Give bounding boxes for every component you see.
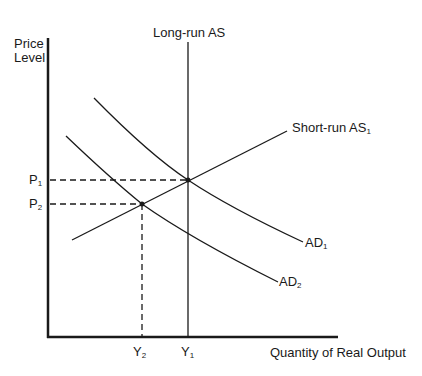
- ad1-subscript: 1: [323, 242, 327, 251]
- ad2-label: AD2: [279, 275, 302, 293]
- ad2-subscript: 2: [297, 281, 301, 290]
- ad1-text: AD: [305, 235, 323, 250]
- sras-line: [72, 131, 287, 240]
- y-axis-label-line2: Level: [14, 51, 45, 65]
- y2-label: Y2: [133, 345, 146, 363]
- ad1-curve: [94, 98, 303, 242]
- p1-text: P: [29, 172, 38, 187]
- y1-text: Y: [181, 344, 190, 359]
- p1-label: P1: [29, 173, 42, 191]
- p2-text: P: [29, 196, 38, 211]
- sras-text: Short-run AS: [292, 120, 366, 135]
- equilibrium-point-2: [140, 202, 145, 207]
- p2-label: P2: [29, 197, 42, 215]
- p2-subscript: 2: [38, 203, 42, 212]
- y2-subscript: 2: [142, 351, 146, 360]
- y2-text: Y: [133, 344, 142, 359]
- y1-label: Y1: [181, 345, 194, 363]
- ad2-text: AD: [279, 274, 297, 289]
- sras-subscript: 1: [366, 127, 370, 136]
- lras-label: Long-run AS: [153, 26, 225, 40]
- y-axis-label-line1: Price: [14, 37, 45, 51]
- ad2-curve: [66, 136, 278, 282]
- sras-label: Short-run AS1: [292, 121, 371, 139]
- diagram-canvas: [0, 0, 422, 376]
- x-axis-label-text: Quantity of Real Output: [270, 345, 406, 360]
- ad1-label: AD1: [305, 236, 328, 254]
- p1-subscript: 1: [38, 179, 42, 188]
- x-axis-label: Quantity of Real Output: [270, 346, 406, 360]
- lras-text: Long-run AS: [153, 25, 225, 40]
- equilibrium-point-1: [186, 178, 191, 183]
- y-axis-label: Price Level: [14, 37, 45, 65]
- y1-subscript: 1: [190, 351, 194, 360]
